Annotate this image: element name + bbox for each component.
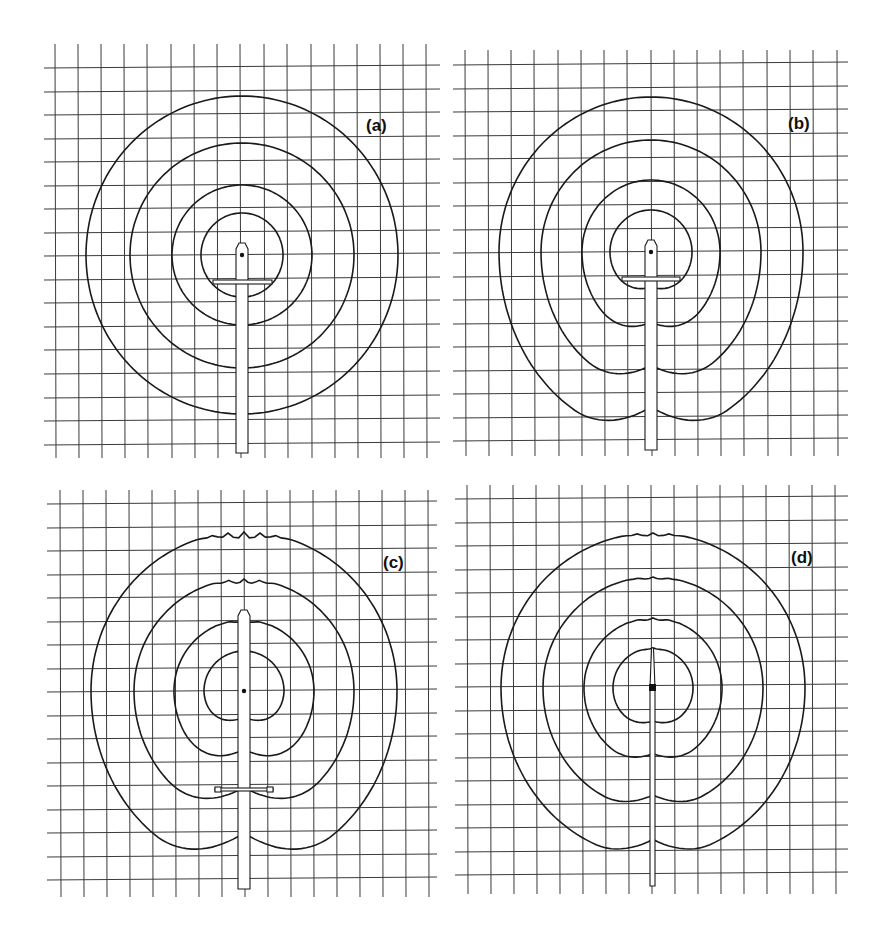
contours-d bbox=[501, 533, 805, 886]
grid-line-horizontal bbox=[47, 548, 437, 551]
grid-line-vertical bbox=[697, 485, 698, 894]
grid-line-vertical bbox=[428, 490, 429, 897]
panel-a: (a) bbox=[44, 44, 440, 458]
contours-a bbox=[86, 96, 398, 453]
probe-rod bbox=[238, 610, 250, 889]
grid-line-vertical bbox=[674, 485, 675, 894]
grid-line-vertical bbox=[837, 50, 838, 456]
grid-line-vertical bbox=[55, 44, 56, 458]
grid-line-horizontal bbox=[453, 86, 848, 89]
grid-line-horizontal bbox=[453, 133, 848, 136]
crossbar bbox=[215, 788, 273, 791]
grid-line-vertical bbox=[490, 485, 491, 894]
grid-line-vertical bbox=[217, 44, 218, 458]
grid-line-vertical bbox=[743, 485, 744, 894]
grid-line-vertical bbox=[101, 44, 102, 458]
grid-line-horizontal bbox=[453, 109, 848, 112]
grid-line-vertical bbox=[536, 485, 537, 894]
panel-label-b: (b) bbox=[788, 114, 810, 133]
grid-line-horizontal bbox=[44, 65, 440, 68]
grid-line-vertical bbox=[605, 485, 606, 894]
grid-line-vertical bbox=[175, 490, 176, 897]
panel-label-a: (a) bbox=[366, 116, 387, 135]
panel-label-c: (c) bbox=[383, 553, 404, 572]
grid-line-vertical bbox=[221, 490, 222, 897]
grid-line-vertical bbox=[835, 485, 836, 894]
grid-line-vertical bbox=[147, 44, 148, 458]
grid-line-vertical bbox=[628, 485, 629, 894]
grid-line-vertical bbox=[697, 50, 698, 456]
panel-c: (c) bbox=[47, 490, 437, 897]
grid-line-vertical bbox=[382, 490, 383, 897]
grid-line-vertical bbox=[513, 485, 514, 894]
grid-line-vertical bbox=[582, 485, 583, 894]
grid-line-vertical bbox=[124, 44, 125, 458]
probe-rod bbox=[236, 243, 248, 453]
grid-line-vertical bbox=[674, 50, 675, 456]
probe-needle bbox=[650, 648, 655, 886]
grid-line-vertical bbox=[766, 485, 767, 894]
grid-line-vertical bbox=[336, 490, 337, 897]
grid-line-horizontal bbox=[47, 501, 437, 504]
panel-b: (b) bbox=[453, 50, 848, 456]
grid-line-horizontal bbox=[453, 203, 848, 206]
grid-line-horizontal bbox=[47, 525, 437, 528]
source-marker bbox=[649, 684, 656, 691]
grid-line-horizontal bbox=[453, 156, 848, 159]
grid-line-vertical bbox=[720, 485, 721, 894]
grid-line-vertical bbox=[106, 490, 107, 897]
grid-line-vertical bbox=[559, 485, 560, 894]
grid-line-vertical bbox=[129, 490, 130, 897]
grid-line-vertical bbox=[813, 50, 814, 456]
grid-line-vertical bbox=[812, 485, 813, 894]
source-point bbox=[242, 689, 246, 693]
crossbar bbox=[622, 277, 680, 281]
grid-line-vertical bbox=[198, 490, 199, 897]
crossbar bbox=[213, 280, 272, 284]
grid-line-vertical bbox=[290, 490, 291, 897]
grid-line-vertical bbox=[152, 490, 153, 897]
probe-rod bbox=[645, 240, 657, 450]
grid-line-vertical bbox=[789, 485, 790, 894]
source-point bbox=[649, 250, 653, 254]
grid-line-vertical bbox=[78, 44, 79, 458]
panel-d: (d) bbox=[455, 485, 848, 894]
grid-line-vertical bbox=[359, 490, 360, 897]
grid-line-horizontal bbox=[453, 227, 848, 230]
grid-line-vertical bbox=[194, 44, 195, 458]
crossbar-end-left bbox=[215, 787, 221, 792]
grid-line-vertical bbox=[426, 44, 427, 458]
grid-line-vertical bbox=[267, 490, 268, 897]
crossbar-end-right bbox=[267, 787, 273, 792]
grid-line-vertical bbox=[767, 50, 768, 456]
figure: (a) (b) (c) (d) bbox=[0, 0, 892, 941]
grid-line-vertical bbox=[790, 50, 791, 456]
source-point bbox=[240, 253, 244, 257]
grid-line-horizontal bbox=[453, 62, 848, 65]
grid-line-vertical bbox=[743, 50, 744, 456]
grid-line-horizontal bbox=[47, 595, 437, 598]
grid-line-horizontal bbox=[47, 572, 437, 575]
grid-line-vertical bbox=[405, 490, 406, 897]
grid-line-vertical bbox=[403, 44, 404, 458]
panel-label-d: (d) bbox=[791, 548, 813, 567]
